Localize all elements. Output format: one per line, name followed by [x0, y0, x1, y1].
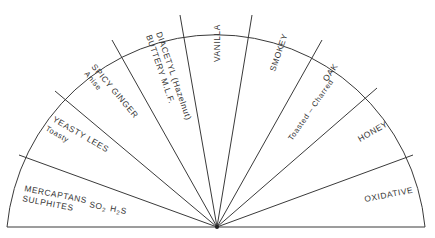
- sector-mercaptans: MERCAPTANS SULPHITES SO2H2S: [22, 183, 128, 217]
- sector-spicy-ginger: SPICY GINGER Anise: [82, 62, 140, 120]
- wheel-center-dot: [215, 225, 219, 229]
- sector-label: VANILLA: [212, 24, 222, 62]
- aroma-wheel-diagram: MERCAPTANS SULPHITES SO2H2S YEASTY LEES …: [0, 0, 435, 238]
- sector-yeasty-lees: YEASTY LEES Toasty: [44, 114, 111, 154]
- sector-sublabel: Toasted – Charred: [286, 77, 335, 142]
- chemical-formula: SO2H2S: [88, 199, 127, 217]
- sector-label: HONEY: [356, 119, 389, 144]
- sector-oak: OAK Toasted – Charred: [286, 61, 340, 142]
- sector-oxidative: OXIDATIVE: [363, 185, 413, 204]
- sector-label: SMOKEY: [267, 32, 289, 73]
- sector-diacetyl: DIACETYL (Hazelnut) BUTTERY M.L.F.: [144, 30, 194, 121]
- sector-vanilla: VANILLA: [212, 24, 222, 62]
- sector-label: OXIDATIVE: [363, 185, 413, 204]
- sector-honey: HONEY: [356, 119, 389, 144]
- sector-smokey: SMOKEY: [267, 32, 289, 73]
